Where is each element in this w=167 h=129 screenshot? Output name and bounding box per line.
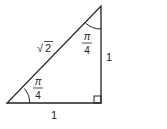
right-angle-marker	[94, 96, 101, 103]
top-angle-numerator: π	[84, 31, 91, 42]
hypotenuse-label: 2	[45, 42, 51, 54]
height-label: 1	[106, 51, 112, 63]
bottom-angle-numerator: π	[35, 76, 42, 87]
sqrt-symbol: √	[37, 42, 44, 54]
triangle-diagram: 1 1 √ 2 π 4 π 4	[0, 0, 167, 129]
angle-arc-top	[86, 23, 102, 29]
bottom-angle-denominator: 4	[35, 90, 41, 101]
top-angle-denominator: 4	[84, 45, 90, 56]
angle-arc-bottom	[25, 89, 30, 104]
base-label: 1	[51, 109, 57, 121]
